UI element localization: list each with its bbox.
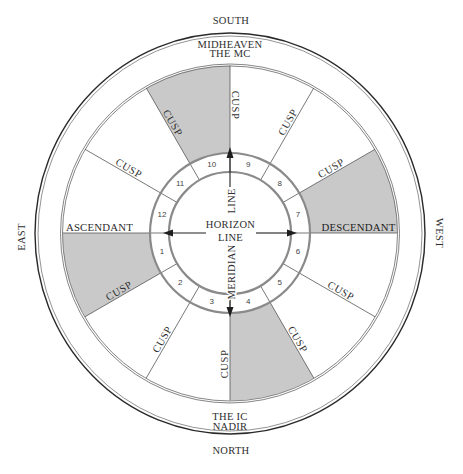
descendant-label: DESCENDANT [322, 221, 396, 233]
nadir-label: NADIR [213, 421, 248, 432]
house-number-11: 11 [176, 179, 185, 188]
house-number-12: 12 [157, 210, 166, 219]
cusp-label-2-3: CUSP [150, 324, 174, 354]
meridian-label-lower: MERIDIAN [226, 244, 237, 299]
cusp-label-5-6: CUSP [326, 279, 356, 303]
house-number-8: 8 [278, 179, 283, 188]
north-label: NORTH [212, 445, 249, 456]
house-number-7: 7 [296, 210, 301, 219]
horizon-label-line2: LINE [218, 232, 243, 243]
chart-canvas: 1 2 3 4 5 6 7 8 9 10 11 12 HORIZON LINE … [0, 0, 463, 474]
house-number-3: 3 [210, 297, 215, 306]
house-number-9: 9 [246, 160, 251, 169]
house-number-10: 10 [207, 160, 216, 169]
house-number-6: 6 [296, 247, 301, 256]
cusp-label-8-9: CUSP [276, 107, 300, 137]
house-number-1: 1 [160, 247, 165, 256]
shaded-house-1 [63, 233, 161, 317]
astrology-house-chart: 1 2 3 4 5 6 7 8 9 10 11 12 HORIZON LINE … [0, 0, 463, 474]
house-number-5: 5 [278, 278, 283, 287]
meridian-label-upper: LINE [226, 188, 237, 213]
horizon-label-line1: HORIZON [206, 219, 255, 230]
east-label: EAST [16, 223, 27, 251]
cusp-label-11-12: CUSP [114, 156, 144, 180]
cusp-label-ic: CUSP [219, 350, 230, 379]
the-mc-label: THE MC [209, 48, 250, 59]
shaded-house-10 [146, 66, 230, 164]
south-label: SOUTH [213, 15, 250, 26]
west-label: WEST [434, 218, 445, 248]
cusp-label-midheaven: CUSP [230, 91, 241, 120]
house-number-2: 2 [178, 278, 183, 287]
ascendant-label: ASCENDANT [66, 221, 133, 233]
house-number-4: 4 [246, 297, 251, 306]
